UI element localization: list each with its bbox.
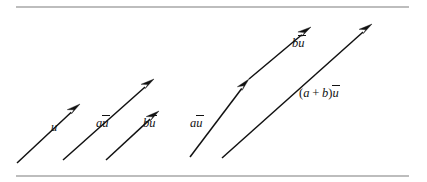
vector-sum-shaft xyxy=(222,32,363,158)
label-vector-bu-top-vector: u xyxy=(298,37,304,50)
label-vector-u: u xyxy=(51,121,57,134)
figure-canvas xyxy=(0,0,427,182)
label-vector-au-mid-vector: u xyxy=(196,117,202,130)
label-vector-au-mid: au xyxy=(190,117,203,130)
label-vector-bu-left-vector: u xyxy=(149,117,155,130)
vector-figure: u au bu au bu (a + b)u xyxy=(0,0,427,182)
vector-u-arrowhead xyxy=(67,104,80,114)
label-vector-sum: (a + b)u xyxy=(299,87,339,100)
label-vector-u-text: u xyxy=(51,120,57,134)
label-vector-sum-plus: + xyxy=(310,86,322,100)
label-vector-bu-left: bu xyxy=(143,117,156,130)
label-vector-bu-top: bu xyxy=(292,37,305,50)
vector-au-mid-arrowhead xyxy=(237,79,249,90)
label-vector-sum-vector: u xyxy=(333,87,339,100)
vector-sum-arrowhead xyxy=(359,24,372,34)
label-vector-au-left: au xyxy=(96,117,109,130)
vector-u-shaft xyxy=(17,112,71,163)
vector-au-left-arrowhead xyxy=(141,79,154,89)
label-vector-au-left-vector: u xyxy=(102,117,108,130)
